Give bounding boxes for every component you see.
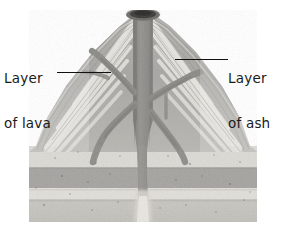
strata-grain — [29, 146, 257, 222]
label-lava-line2: of lava — [4, 116, 51, 131]
label-lava-line1: Layer — [4, 71, 51, 86]
leader-line-lava — [57, 72, 111, 73]
label-ash-line2: of ash — [228, 116, 270, 131]
photo-block — [28, 8, 258, 222]
label-layer-of-ash: Layer of ash — [228, 41, 270, 161]
leader-line-ash — [175, 59, 228, 60]
label-ash-line1: Layer — [228, 71, 270, 86]
label-layer-of-lava: Layer of lava — [4, 41, 51, 161]
figure-canvas: Layer of lava Layer of ash — [0, 0, 286, 232]
